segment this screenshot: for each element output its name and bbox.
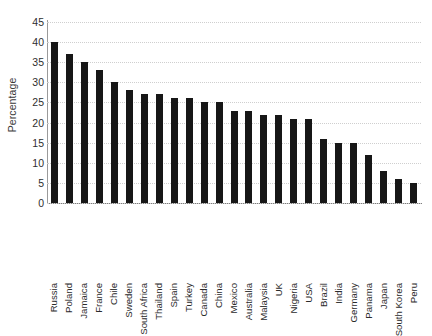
y-axis-tick-label: 15 [18,138,44,148]
y-axis-tick-label: 35 [18,57,44,67]
x-axis-tick-label-text: Mexico [229,283,239,313]
bar [305,119,312,203]
bar [365,155,372,203]
bar [111,82,118,203]
bar [245,111,252,204]
x-axis-tick-label-text: France [95,283,105,313]
y-axis-tick-label: 45 [18,17,44,27]
y-axis-tick-label: 20 [18,118,44,128]
bar [320,139,327,203]
gridline [47,102,421,103]
bar [66,54,73,203]
bar [186,98,193,203]
x-axis-tick-label-text: Malaysia [259,283,269,321]
bar [275,115,282,203]
x-axis-tick-label-text: South Korea [394,283,404,336]
y-axis-tick-label: 25 [18,97,44,107]
bar [231,111,238,204]
bar [395,179,402,203]
bar [126,90,133,203]
bar [290,119,297,203]
bar [335,143,342,203]
x-axis-tick-label-text: UK [274,283,284,296]
bar [141,94,148,203]
bar [156,94,163,203]
x-axis-tick-label-text: Peru [409,283,419,303]
y-axis-tick-label: 10 [18,158,44,168]
x-axis-tick-label-text: India [334,283,344,304]
x-axis-tick-label-text: USA [304,283,314,303]
x-axis-tick-label-text: Sweden [124,283,134,318]
x-axis-tick-labels: RussiaPolandJamaicaFranceChileSwedenSout… [47,205,422,286]
bar [410,183,417,203]
y-axis-tick-label: 0 [18,198,44,208]
x-axis-tick-label-text: Poland [65,283,75,313]
x-axis-tick-label-text: Nigeria [289,283,299,313]
x-axis-tick-label-text: Canada [199,283,209,317]
bar [201,102,208,203]
x-axis-tick-label-text: South Africa [139,283,149,335]
bar [81,62,88,203]
y-axis-tick-label: 40 [18,37,44,47]
x-axis-tick-label-text: Turkey [184,283,194,312]
x-axis-tick-label-text: Australia [244,283,254,320]
bar [350,143,357,203]
x-axis-tick-label-text: Brazil [319,283,329,307]
bar [96,70,103,203]
gridline [47,22,421,23]
plot-area [47,22,421,203]
x-axis-tick-label-text: China [214,283,224,308]
y-axis-tick-label: 5 [18,178,44,188]
gridline [47,42,421,43]
x-axis-tick-label-text: Russia [50,283,60,312]
x-axis-tick-label-text: Panama [364,283,374,319]
bar [216,102,223,203]
x-axis-tick-label-text: Chile [110,283,120,305]
gridline [47,62,421,63]
x-axis-tick-label-text: Thailand [154,283,164,320]
gridline [47,203,421,204]
bar [380,171,387,203]
x-axis-tick-label-text: Japan [379,283,389,309]
gridline [47,82,421,83]
bar [260,115,267,203]
bar [51,42,58,203]
bar [171,98,178,203]
x-axis-tick-label-text: Jamaica [80,283,90,319]
x-axis-tick-label-text: Spain [169,283,179,308]
x-axis-tick-label-text: Germany [349,283,359,322]
y-axis-tick-labels: 051015202530354045 [16,22,44,203]
y-axis-tick-label: 30 [18,77,44,87]
